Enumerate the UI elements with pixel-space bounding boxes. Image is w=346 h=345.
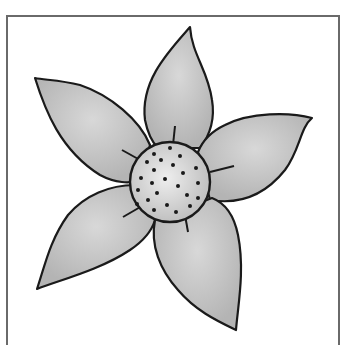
- petal-top: [144, 27, 212, 148]
- petal-right: [198, 114, 312, 201]
